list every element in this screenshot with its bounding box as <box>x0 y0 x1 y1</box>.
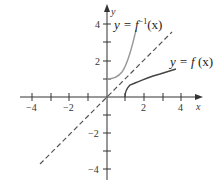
x-tick-label-2: 2 <box>141 102 146 113</box>
f-inverse-label: y = f−1(x) <box>112 17 162 32</box>
x-tick-label-neg4: −4 <box>26 102 37 113</box>
y-tick-label-2: 2 <box>95 56 100 67</box>
graph-canvas: −4 −2 2 4 x 4 2 −2 −4 y y = f−1(x) y = f… <box>0 0 224 190</box>
y-tick-label-neg2: −2 <box>88 128 99 139</box>
y-tick-label-4: 4 <box>95 19 100 30</box>
identity-line <box>40 32 172 164</box>
x-tick-label-4: 4 <box>178 102 183 113</box>
f-curve <box>125 69 176 97</box>
y-tick-label-neg4: −4 <box>88 164 99 175</box>
y-axis-arrow-icon <box>104 4 110 12</box>
x-axis-arrow-icon <box>195 94 203 100</box>
axes <box>20 9 197 180</box>
x-tick-label-neg2: −2 <box>63 102 74 113</box>
f-label: y = f (x) <box>168 54 213 69</box>
x-axis-label: x <box>195 101 201 112</box>
y-axis-label: y <box>110 6 116 17</box>
